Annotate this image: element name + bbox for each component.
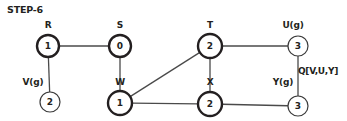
node-value-t: 2: [207, 41, 213, 51]
graph-node-v[interactable]: 2: [40, 92, 60, 112]
node-value-y: 3: [295, 101, 301, 111]
node-label-u: U(g): [282, 20, 303, 30]
node-label-v: V(g): [23, 77, 44, 87]
node-label-s: S: [117, 20, 123, 30]
graph-edges: [48, 46, 298, 106]
node-label-w: W: [115, 77, 125, 87]
graph-node-w[interactable]: 1: [108, 91, 132, 115]
graph-node-t[interactable]: 2: [198, 34, 222, 58]
graph-edge: [48, 57, 49, 92]
node-label-x: X: [207, 77, 214, 87]
node-value-w: 1: [117, 98, 123, 108]
graph-node-y[interactable]: 3: [288, 96, 308, 116]
node-value-v: 2: [47, 97, 53, 107]
node-value-s: 0: [117, 41, 123, 51]
graph-canvas: 10232123: [0, 0, 347, 121]
node-label-r: R: [45, 20, 52, 30]
graph-node-x[interactable]: 2: [198, 92, 222, 116]
node-value-u: 3: [295, 41, 301, 51]
node-label-y: Y(g): [273, 77, 293, 87]
graph-node-s[interactable]: 0: [109, 35, 131, 57]
graph-node-r[interactable]: 1: [37, 35, 59, 57]
queue-label: Q[V,U,Y]: [298, 66, 338, 76]
graph-node-u[interactable]: 3: [288, 36, 308, 56]
node-value-r: 1: [45, 41, 51, 51]
graph-edge: [222, 104, 288, 106]
graph-edge: [132, 103, 198, 104]
node-label-t: T: [207, 20, 213, 30]
node-value-x: 2: [207, 99, 213, 109]
step-diagram-figure: STEP-6 10232123 RSTU(g)V(g)WXY(g) Q[V,U,…: [0, 0, 347, 121]
graph-edge: [130, 52, 200, 96]
